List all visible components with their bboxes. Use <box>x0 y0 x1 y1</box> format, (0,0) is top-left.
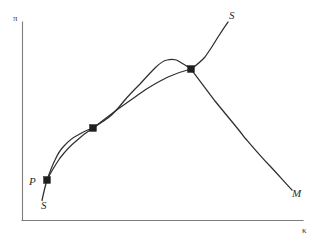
m-schedule-curve <box>47 60 292 190</box>
ss-schedule-curve <box>42 22 228 201</box>
label-s-upper: S <box>229 10 235 21</box>
marker-point-upper <box>188 66 195 73</box>
y-axis-label: π <box>13 14 18 23</box>
label-p-point: P <box>29 176 36 187</box>
figure-container: π κ P S S M <box>0 0 330 246</box>
label-m-end: M <box>292 188 301 199</box>
x-axis-label: κ <box>302 226 307 235</box>
label-s-lower: S <box>41 200 47 211</box>
marker-point-middle <box>90 125 97 132</box>
marker-point-p <box>44 177 51 184</box>
phase-diagram-svg <box>0 0 330 246</box>
